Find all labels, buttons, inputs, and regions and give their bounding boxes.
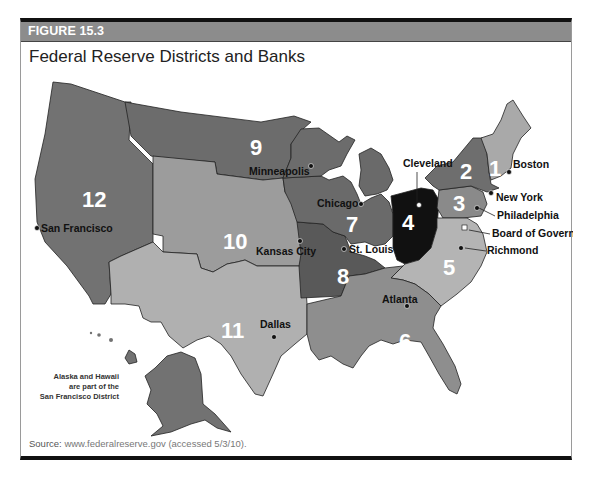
district-number-11: 11 <box>221 318 244 343</box>
district-number-12: 12 <box>82 187 106 212</box>
district-number-5: 5 <box>443 255 455 280</box>
bank-label-st-louis: St. Louis <box>349 243 393 255</box>
bank-marker-philadelphia <box>475 206 480 211</box>
bank-marker-kansas-city <box>298 239 303 244</box>
source-text: www.federalreserve.gov (accessed 5/3/10)… <box>62 438 247 449</box>
bank-marker-cleveland <box>417 203 422 208</box>
bank-label-new-york: New York <box>496 191 543 203</box>
bank-marker-dallas <box>272 335 277 340</box>
bank-label-atlanta: Atlanta <box>382 293 418 305</box>
district-number-1: 1 <box>489 156 501 181</box>
district-number-3: 3 <box>453 191 465 216</box>
bank-marker-san-francisco <box>35 226 40 231</box>
hawaii-region <box>125 350 137 364</box>
bank-label-board-of-governors: Board of Governors <box>492 227 573 239</box>
bank-label-san-francisco: San Francisco <box>41 222 113 234</box>
us-map: 1 2 3 4 5 6 7 8 9 10 11 12 <box>21 22 573 464</box>
district-number-6: 6 <box>399 329 411 354</box>
bank-label-chicago: Chicago <box>317 197 358 209</box>
bank-label-cleveland: Cleveland <box>403 157 453 169</box>
bank-label-boston: Boston <box>513 158 549 170</box>
bank-marker-chicago <box>359 202 364 207</box>
bank-marker-richmond <box>459 246 464 251</box>
board-of-governors-marker <box>462 225 467 230</box>
source-citation: Source: www.federalreserve.gov (accessed… <box>29 438 247 449</box>
district-number-8: 8 <box>337 264 349 289</box>
note-line-1: Alaska and Hawaii <box>54 372 119 381</box>
bank-label-philadelphia: Philadelphia <box>497 209 559 221</box>
alaska-region <box>145 352 231 436</box>
district-number-7: 7 <box>346 212 358 237</box>
note-line-2: are part of the <box>69 382 119 391</box>
bank-label-kansas-city: Kansas City <box>256 245 316 257</box>
figure-box: FIGURE 15.3 Federal Reserve Districts an… <box>20 18 572 460</box>
bank-label-richmond: Richmond <box>487 244 538 256</box>
note-line-3: San Francisco District <box>40 392 120 401</box>
district-number-4: 4 <box>402 210 415 235</box>
bank-label-minneapolis: Minneapolis <box>249 165 310 177</box>
bank-marker-st-louis <box>342 247 347 252</box>
bank-marker-boston <box>507 170 512 175</box>
source-prefix: Source: <box>29 438 62 449</box>
bank-marker-new-york <box>489 191 494 196</box>
district-number-10: 10 <box>223 229 247 254</box>
district-number-9: 9 <box>250 135 262 160</box>
michigan-region <box>359 148 393 196</box>
district-number-2: 2 <box>460 159 472 184</box>
bank-label-dallas: Dallas <box>260 318 291 330</box>
